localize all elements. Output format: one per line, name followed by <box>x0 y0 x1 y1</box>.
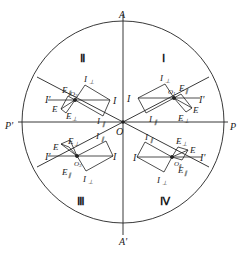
svg-text:Ⅲ: Ⅲ <box>77 195 85 207</box>
svg-text:⊥: ⊥ <box>74 141 79 147</box>
svg-text:⊥: ⊥ <box>72 116 77 122</box>
svg-text:∥: ∥ <box>68 172 72 179</box>
svg-text:∥: ∥ <box>185 88 189 95</box>
svg-text:⊥: ⊥ <box>182 141 187 147</box>
axis-labels: A A' P' P O <box>4 9 236 247</box>
svg-text:Ⅳ: Ⅳ <box>160 195 171 207</box>
svg-text:∥: ∥ <box>154 119 158 126</box>
label-A: A <box>118 9 126 20</box>
svg-text:⊥: ⊥ <box>165 78 170 84</box>
svg-text:I': I' <box>44 94 51 105</box>
svg-text:I: I <box>144 132 149 142</box>
label-O-center: O <box>116 126 123 137</box>
polarization-diagram: Ⅰ I I' I ⊥ I ∥ E ∥ E E ⊥ O 1 Ⅱ I I' I ⊥ … <box>0 0 246 253</box>
svg-text:⊥: ⊥ <box>89 79 94 85</box>
center-point <box>121 120 125 124</box>
svg-text:1: 1 <box>173 91 176 96</box>
quadrant-1-labels: Ⅰ I I' I ⊥ I ∥ E ∥ E E ⊥ O 1 <box>126 52 205 126</box>
svg-text:E: E <box>61 85 68 95</box>
svg-text:Ⅰ: Ⅰ <box>162 52 165 64</box>
svg-text:I: I <box>132 152 137 163</box>
label-A-prime: A' <box>118 236 128 247</box>
svg-text:I: I <box>126 93 131 104</box>
svg-text:Ⅱ: Ⅱ <box>80 52 85 64</box>
svg-text:E: E <box>175 136 182 146</box>
label-P-prime: P' <box>4 120 14 131</box>
svg-text:I: I <box>159 73 164 83</box>
svg-text:⊥: ⊥ <box>184 118 189 124</box>
svg-text:E: E <box>52 142 59 152</box>
quadrant-4-labels: Ⅳ I I' I ⊥ I ∥ E ∥ E E ⊥ O 4 <box>132 132 206 207</box>
quadrant-3-labels: Ⅲ I I' I ⊥ I ∥ E ∥ E E ⊥ O 3 <box>44 131 117 207</box>
svg-text:I': I' <box>198 94 205 105</box>
svg-text:I: I <box>148 114 153 124</box>
svg-text:E: E <box>178 83 185 93</box>
svg-text:⊥: ⊥ <box>88 179 93 185</box>
svg-text:E: E <box>65 111 72 121</box>
svg-text:E: E <box>177 113 184 123</box>
label-P: P <box>229 121 236 132</box>
svg-text:I: I <box>112 95 117 106</box>
svg-text:I: I <box>83 74 88 84</box>
svg-text:E: E <box>61 167 68 177</box>
svg-text:I': I' <box>44 151 51 162</box>
svg-text:⊥: ⊥ <box>162 180 167 186</box>
svg-text:∥: ∥ <box>184 170 188 177</box>
svg-text:I': I' <box>199 152 206 163</box>
svg-text:E: E <box>67 136 74 146</box>
svg-text:I: I <box>112 151 117 162</box>
svg-text:I: I <box>95 131 100 141</box>
svg-text:I: I <box>96 116 101 126</box>
svg-text:E: E <box>51 104 58 114</box>
quadrant-2-labels: Ⅱ I I' I ⊥ I ∥ E ∥ E E ⊥ O 2 <box>44 52 117 128</box>
svg-text:E: E <box>192 105 199 115</box>
svg-text:I: I <box>156 175 161 185</box>
svg-text:I: I <box>82 174 87 184</box>
svg-text:E: E <box>189 145 196 155</box>
